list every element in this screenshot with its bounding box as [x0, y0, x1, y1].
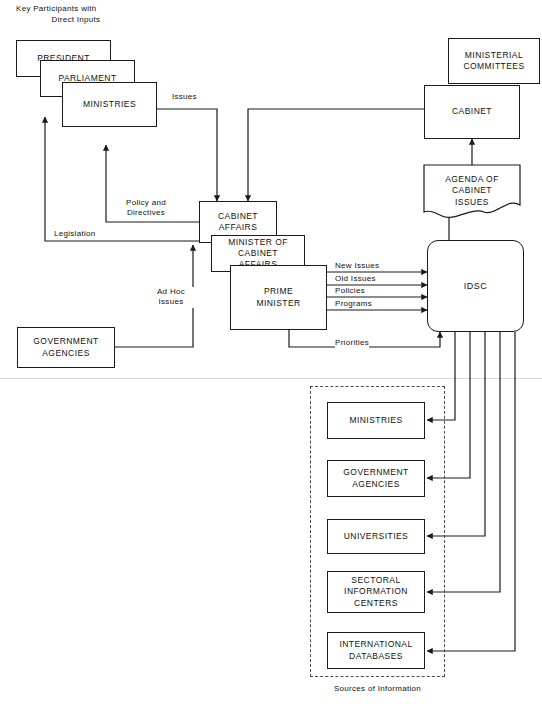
edge-cabinet-to-cabinet-affairs — [248, 109, 424, 201]
node-source-government-agencies-line2: AGENCIES — [340, 479, 411, 490]
node-source-international-line1: INTERNATIONAL — [336, 639, 415, 650]
edge-label-issues: Issues — [172, 92, 197, 102]
edge-label-policy-line1: Policy and — [114, 198, 178, 208]
node-cabinet-label: CABINET — [449, 106, 495, 117]
node-government-agencies[interactable]: GOVERNMENT AGENCIES — [17, 327, 115, 368]
edge-ministries-to-cabinet-affairs — [157, 109, 217, 201]
node-ministerial-committees[interactable]: MINISTERIAL COMMITTEES — [448, 38, 540, 84]
node-source-ministries-label: MINISTRIES — [346, 415, 405, 426]
node-ministerial-committees-line1: MINISTERIAL — [460, 50, 527, 61]
node-ministries-top-label: MINISTRIES — [80, 99, 139, 110]
node-ministries-top[interactable]: MINISTRIES — [62, 82, 157, 127]
node-idsc[interactable]: IDSC — [427, 240, 524, 332]
node-agenda-line1: AGENDA OF — [445, 174, 499, 185]
edge-label-new-issues: New Issues — [335, 261, 379, 271]
node-cabinet[interactable]: CABINET — [424, 85, 520, 139]
edge-label-ad-hoc-issues: Ad Hoc Issues — [148, 287, 194, 308]
node-source-universities[interactable]: UNIVERSITIES — [327, 519, 425, 554]
diagram-canvas: Key Participants with Direct Inputs PRES… — [0, 0, 542, 709]
node-agenda-line2: CABINET — [445, 185, 499, 196]
node-source-sectoral-line1: SECTORAL — [341, 575, 411, 586]
node-government-agencies-line2: AGENCIES — [30, 348, 101, 359]
node-source-sectoral-information-centers[interactable]: SECTORAL INFORMATION CENTERS — [327, 571, 425, 613]
node-agenda-line3: ISSUES — [445, 197, 499, 208]
node-source-sectoral-line3: CENTERS — [341, 598, 411, 609]
edge-label-policy-and-directives: Policy and Directives — [114, 198, 178, 219]
node-prime-minister[interactable]: PRIME MINISTER — [230, 265, 327, 330]
sources-of-information-caption: Sources of Information — [310, 684, 445, 695]
node-government-agencies-line1: GOVERNMENT — [30, 336, 101, 347]
edge-label-priorities: Priorities — [335, 338, 369, 348]
node-cabinet-affairs-line1: CABINET — [215, 211, 261, 222]
node-prime-minister-line2: MINISTER — [253, 298, 303, 309]
node-source-international-line2: DATABASES — [336, 651, 415, 662]
node-source-international-databases[interactable]: INTERNATIONAL DATABASES — [327, 632, 425, 669]
header-note: Key Participants with Direct Inputs — [16, 4, 136, 26]
node-source-government-agencies[interactable]: GOVERNMENT AGENCIES — [327, 460, 425, 497]
edge-label-programs: Programs — [335, 299, 372, 309]
edge-label-old-issues: Old Issues — [335, 274, 376, 284]
node-source-government-agencies-line1: GOVERNMENT — [340, 467, 411, 478]
node-ministerial-committees-line2: COMMITTEES — [460, 61, 527, 72]
edge-label-policies: Policies — [335, 286, 365, 296]
header-note-line2: Direct Inputs — [16, 15, 136, 26]
header-note-line1: Key Participants with — [16, 4, 136, 15]
edge-label-legislation: Legislation — [54, 229, 96, 239]
node-source-sectoral-line2: INFORMATION — [341, 586, 411, 597]
node-source-universities-label: UNIVERSITIES — [341, 531, 411, 542]
edge-label-policy-line2: Directives — [114, 208, 178, 218]
edge-label-ad-hoc-line2: Issues — [148, 297, 194, 307]
edge-label-ad-hoc-line1: Ad Hoc — [148, 287, 194, 297]
node-cabinet-affairs-line2: AFFAIRS — [215, 222, 261, 233]
node-source-ministries[interactable]: MINISTRIES — [327, 402, 425, 439]
node-prime-minister-line1: PRIME — [253, 286, 303, 297]
node-idsc-label: IDSC — [464, 281, 488, 291]
node-minister-of-cabinet-affairs-line1: MINISTER OF — [215, 237, 301, 248]
node-agenda-of-cabinet-issues[interactable]: AGENDA OF CABINET ISSUES — [424, 165, 520, 220]
